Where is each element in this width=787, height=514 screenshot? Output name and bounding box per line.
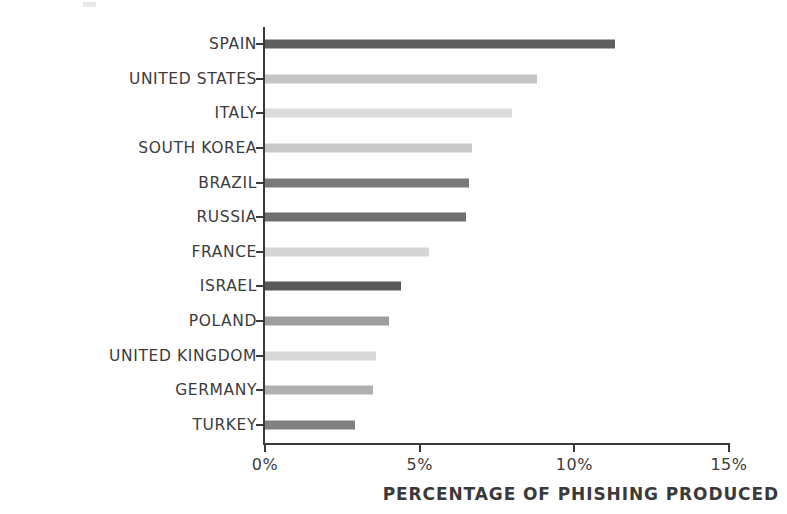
- x-axis-tick: [573, 443, 575, 452]
- x-axis-line: [263, 443, 729, 445]
- x-axis-tick-label: 5%: [406, 455, 432, 474]
- y-axis-tick: [256, 355, 264, 357]
- plot-area: SPAINUNITED STATESITALYSOUTH KOREABRAZIL…: [0, 0, 787, 514]
- bar: [265, 282, 401, 291]
- x-axis-tick: [419, 443, 421, 452]
- bar-row: TURKEY: [0, 408, 787, 443]
- y-axis-tick: [256, 320, 264, 322]
- bar-row: SPAIN: [0, 27, 787, 62]
- category-label: UNITED KINGDOM: [109, 347, 257, 365]
- category-label: RUSSIA: [196, 208, 257, 226]
- phishing-bar-chart: SPAINUNITED STATESITALYSOUTH KOREABRAZIL…: [0, 0, 787, 514]
- y-axis-tick: [256, 216, 264, 218]
- x-axis-tick: [728, 443, 730, 452]
- category-label: SPAIN: [209, 35, 257, 53]
- category-label: TURKEY: [192, 416, 257, 434]
- y-axis-tick: [256, 112, 264, 114]
- category-label: POLAND: [189, 312, 257, 330]
- x-axis-title: PERCENTAGE OF PHISHING PRODUCED: [0, 484, 779, 504]
- category-label: UNITED STATES: [129, 70, 257, 88]
- bar: [265, 40, 615, 49]
- y-axis-tick: [256, 251, 264, 253]
- category-label: FRANCE: [192, 243, 257, 261]
- bar-row: SOUTH KOREA: [0, 131, 787, 166]
- y-axis-tick: [256, 43, 264, 45]
- bar-row: UNITED STATES: [0, 62, 787, 97]
- y-axis-tick: [256, 389, 264, 391]
- y-axis-tick: [256, 424, 264, 426]
- bar-row: RUSSIA: [0, 200, 787, 235]
- bar: [265, 74, 537, 83]
- bar: [265, 317, 389, 326]
- y-axis-tick: [256, 78, 264, 80]
- y-axis-tick: [256, 147, 264, 149]
- bar-row: ITALY: [0, 96, 787, 131]
- y-axis-tick: [256, 285, 264, 287]
- x-axis-tick-label: 15%: [710, 455, 747, 474]
- y-axis-tick: [256, 182, 264, 184]
- bar-row: UNITED KINGDOM: [0, 338, 787, 373]
- category-label: ISRAEL: [200, 277, 257, 295]
- bar: [265, 144, 472, 153]
- bar: [265, 247, 429, 256]
- category-label: ITALY: [215, 104, 257, 122]
- bar: [265, 213, 466, 222]
- category-label: GERMANY: [175, 381, 257, 399]
- bar: [265, 386, 373, 395]
- bar: [265, 351, 376, 360]
- bar-row: ISRAEL: [0, 269, 787, 304]
- bar-row: POLAND: [0, 304, 787, 339]
- bar: [265, 109, 512, 118]
- bar: [265, 420, 355, 429]
- bar-row: BRAZIL: [0, 165, 787, 200]
- category-label: SOUTH KOREA: [138, 139, 257, 157]
- bar: [265, 178, 469, 187]
- category-label: BRAZIL: [198, 174, 257, 192]
- x-axis-tick: [264, 443, 266, 452]
- bar-row: GERMANY: [0, 373, 787, 408]
- x-axis-tick-label: 0%: [252, 455, 278, 474]
- x-axis-tick-label: 10%: [556, 455, 593, 474]
- bar-row: FRANCE: [0, 235, 787, 270]
